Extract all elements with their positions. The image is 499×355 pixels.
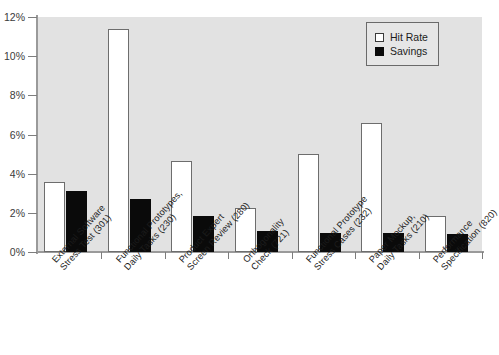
x-axis-tick [165, 252, 166, 259]
y-axis-label: 6% [0, 129, 25, 141]
legend-swatch-filled-square-icon [375, 47, 384, 56]
legend-item-hit-rate: Hit Rate [375, 31, 428, 43]
y-axis-tick [28, 56, 37, 57]
y-axis-label: 10% [0, 50, 25, 62]
x-axis-tick [101, 252, 102, 259]
y-axis-tick [28, 213, 37, 214]
x-axis-tick [482, 252, 483, 259]
legend-item-savings: Savings [375, 45, 428, 57]
x-axis-tick [292, 252, 293, 259]
x-axis-tick [355, 252, 356, 259]
y-axis-label: 12% [0, 11, 25, 23]
legend-label: Savings [390, 45, 427, 57]
x-axis-tick [419, 252, 420, 259]
y-axis-label: 8% [0, 89, 25, 101]
legend-swatch-hollow-square-icon [375, 33, 384, 42]
y-axis-tick [28, 17, 37, 18]
y-axis-tick [28, 252, 37, 253]
legend: Hit Rate Savings [366, 22, 439, 66]
y-axis-label: 4% [0, 168, 25, 180]
y-axis-label: 2% [0, 207, 25, 219]
y-axis-tick [28, 135, 37, 136]
bar-group [298, 17, 341, 252]
bar-hit-rate [298, 154, 319, 252]
x-axis-tick [228, 252, 229, 259]
bar-hit-rate [361, 123, 382, 252]
y-axis-label: 0% [0, 246, 25, 258]
y-axis-tick [28, 95, 37, 96]
bar-group [44, 17, 87, 252]
bar-hit-rate [44, 182, 65, 253]
y-axis-tick [28, 174, 37, 175]
legend-label: Hit Rate [390, 31, 428, 43]
